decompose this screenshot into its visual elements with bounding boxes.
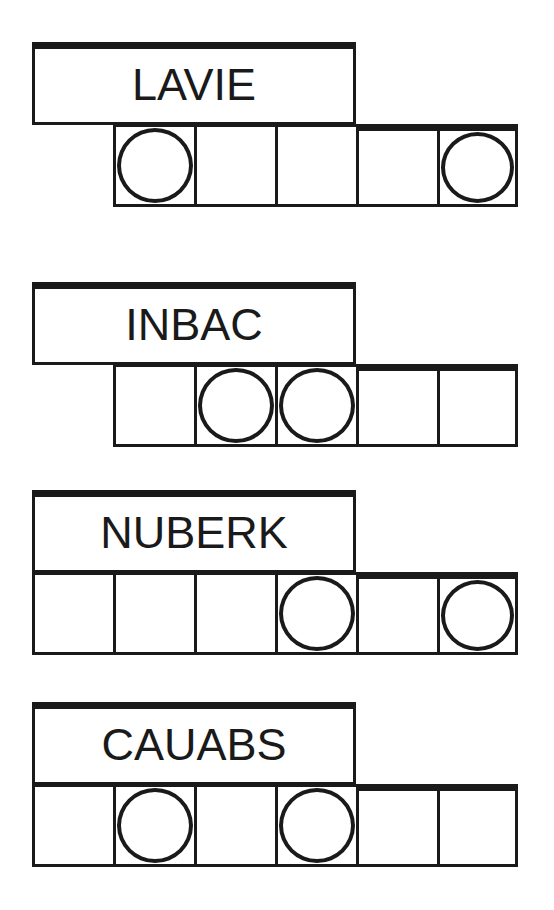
circle-marker-icon — [117, 788, 193, 863]
answer-cell[interactable] — [113, 124, 194, 207]
word-label: LAVIE — [132, 62, 256, 107]
word-label: CAUABS — [101, 722, 286, 767]
answer-cell[interactable] — [356, 572, 437, 655]
answer-cell[interactable] — [437, 124, 518, 207]
circle-marker-icon — [198, 368, 274, 443]
answer-cell-grid — [32, 784, 518, 867]
answer-cell[interactable] — [437, 784, 518, 867]
answer-cell[interactable] — [194, 572, 275, 655]
word-box: LAVIE — [32, 42, 356, 125]
answer-cell-grid — [32, 572, 518, 655]
word-box: INBAC — [32, 282, 356, 365]
answer-cell[interactable] — [32, 572, 113, 655]
word-puzzle-worksheet: LAVIEINBACNUBERKCAUABS — [0, 0, 554, 910]
word-label: INBAC — [125, 302, 263, 347]
circle-marker-icon — [441, 580, 514, 651]
answer-cell[interactable] — [113, 364, 194, 447]
answer-cell[interactable] — [275, 124, 356, 207]
answer-cell[interactable] — [194, 784, 275, 867]
answer-cell[interactable] — [437, 364, 518, 447]
word-label: NUBERK — [100, 510, 288, 555]
answer-cell-grid — [113, 124, 518, 207]
answer-cell[interactable] — [113, 572, 194, 655]
word-box: NUBERK — [32, 490, 356, 573]
circle-marker-icon — [279, 576, 355, 651]
answer-cell[interactable] — [194, 124, 275, 207]
answer-cell[interactable] — [356, 364, 437, 447]
answer-cell-grid — [113, 364, 518, 447]
circle-marker-icon — [279, 788, 355, 863]
answer-cell[interactable] — [194, 364, 275, 447]
circle-marker-icon — [441, 132, 514, 203]
word-box: CAUABS — [32, 702, 356, 785]
circle-marker-icon — [279, 368, 355, 443]
answer-cell[interactable] — [113, 784, 194, 867]
circle-marker-icon — [117, 128, 193, 203]
answer-cell[interactable] — [275, 784, 356, 867]
answer-cell[interactable] — [437, 572, 518, 655]
answer-cell[interactable] — [275, 364, 356, 447]
answer-cell[interactable] — [356, 784, 437, 867]
answer-cell[interactable] — [32, 784, 113, 867]
answer-cell[interactable] — [356, 124, 437, 207]
answer-cell[interactable] — [275, 572, 356, 655]
